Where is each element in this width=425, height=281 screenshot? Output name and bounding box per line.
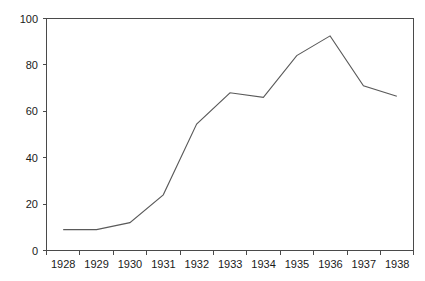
x-tick-label: 1936 [318, 258, 342, 270]
x-tick-label: 1928 [51, 258, 75, 270]
chart-canvas: 0 20 40 60 80 100 [0, 0, 425, 281]
y-tick-label: 0 [32, 245, 38, 257]
y-tick-label: 80 [26, 59, 38, 71]
y-tick-label: 100 [20, 13, 38, 25]
x-tick-label: 1930 [118, 258, 142, 270]
y-tick-label: 40 [26, 152, 38, 164]
x-tick-label: 1937 [352, 258, 376, 270]
x-tick-label: 1935 [285, 258, 309, 270]
y-tick-label: 60 [26, 105, 38, 117]
x-tick-label: 1938 [385, 258, 409, 270]
chart-background [0, 0, 425, 281]
y-tick-label: 20 [26, 198, 38, 210]
x-tick-label: 1932 [185, 258, 209, 270]
x-tick-label: 1929 [84, 258, 108, 270]
line-chart-figure: 0 20 40 60 80 100 [0, 0, 425, 281]
x-tick-label: 1933 [218, 258, 242, 270]
x-tick-label: 1934 [251, 258, 275, 270]
x-tick-label: 1931 [151, 258, 175, 270]
